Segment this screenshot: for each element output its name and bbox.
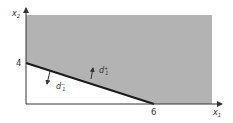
d-plus-label: d+1 [99,65,108,76]
y-axis-label: x2 [11,9,21,19]
d-minus-arrow-icon [47,71,50,84]
x-intercept-label: 6 [151,107,156,117]
y-intercept-label: 4 [16,58,21,68]
goal-constraint-diagram: x2 x1 4 6 d+1 d−1 [0,0,233,123]
shaded-region [26,15,212,104]
d-minus-label: d−1 [56,81,65,92]
x-axis-label: x1 [212,108,221,118]
